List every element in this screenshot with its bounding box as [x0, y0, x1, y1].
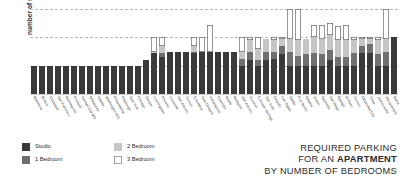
bar-column[interactable] [358, 9, 366, 94]
bar-stack [359, 37, 365, 94]
bar-column[interactable] [126, 9, 134, 94]
bar-column[interactable] [230, 9, 238, 94]
bar-segment-br2 [351, 40, 357, 53]
bar-column[interactable] [110, 9, 118, 94]
legend-swatch-2-bedroom-icon [114, 143, 122, 151]
bar-column[interactable] [302, 9, 310, 94]
bar-segment-br1 [271, 52, 277, 59]
bar-column[interactable] [46, 9, 54, 94]
bar-stack [311, 25, 317, 94]
bar-segment-br2 [319, 39, 325, 55]
bar-column[interactable] [334, 9, 342, 94]
bar-segment-br3 [295, 9, 301, 40]
bar-column[interactable] [270, 9, 278, 94]
bar-column[interactable] [62, 9, 70, 94]
title-line-1: REQUIRED PARKING [264, 143, 397, 154]
bar-stack [383, 9, 389, 94]
bar-column[interactable] [150, 9, 158, 94]
bar-column[interactable] [198, 9, 206, 94]
bar-segment-studio [135, 66, 141, 94]
bar-stack [63, 66, 69, 94]
legend-item-2-bedroom[interactable]: 2 Bedroom [114, 143, 206, 151]
bar-column[interactable] [222, 9, 230, 94]
bar-segment-studio [231, 52, 237, 95]
bar-column[interactable] [294, 9, 302, 94]
legend-item-studio[interactable]: Studio [22, 143, 114, 151]
bar-segment-studio [119, 66, 125, 94]
bar-column[interactable] [102, 9, 110, 94]
bar-column[interactable] [374, 9, 382, 94]
bar-column[interactable] [206, 9, 214, 94]
bar-stack [191, 37, 197, 94]
bar-segment-studio [143, 60, 149, 94]
bar-column[interactable] [166, 9, 174, 94]
bar-column[interactable] [310, 9, 318, 94]
bar-column[interactable] [350, 9, 358, 94]
legend-swatch-studio-icon [22, 143, 30, 151]
bar-stack [271, 37, 277, 94]
bar-stack [127, 66, 133, 94]
bar-segment-br1 [295, 56, 301, 66]
bar-column[interactable] [118, 9, 126, 94]
bar-column[interactable] [278, 9, 286, 94]
bar-segment-br3 [239, 37, 245, 51]
bar-segment-br2 [327, 35, 333, 51]
bar-segment-br2 [239, 52, 245, 59]
legend-swatch-3-bedroom-icon [114, 156, 122, 164]
bar-column[interactable] [382, 9, 390, 94]
bar-column[interactable] [390, 9, 398, 94]
legend-swatch-1-bedroom-icon [22, 156, 30, 164]
bar-column[interactable] [78, 9, 86, 94]
bar-column[interactable] [342, 9, 350, 94]
bar-column[interactable] [182, 9, 190, 94]
bar-column[interactable] [86, 9, 94, 94]
bar-column[interactable] [366, 9, 374, 94]
bar-segment-br2 [375, 40, 381, 54]
bar-segment-br1 [343, 57, 349, 66]
legend-label-3-bedroom: 3 Bedroom [127, 157, 154, 163]
bar-segment-studio [31, 66, 37, 94]
bar-column[interactable] [142, 9, 150, 94]
bar-column[interactable] [238, 9, 246, 94]
bar-column[interactable] [318, 9, 326, 94]
legend-item-1-bedroom[interactable]: 1 Bedroom [22, 156, 114, 164]
legend-label-2-bedroom: 2 Bedroom [127, 144, 154, 150]
bar-column[interactable] [38, 9, 46, 94]
legend: Studio 2 Bedroom 1 Bedroom 3 Bedroom [22, 143, 207, 169]
bar-column[interactable] [158, 9, 166, 94]
bar-column[interactable] [30, 9, 38, 94]
legend-row: 1 Bedroom 3 Bedroom [22, 156, 207, 164]
legend-item-3-bedroom[interactable]: 3 Bedroom [114, 156, 206, 164]
bar-column[interactable] [54, 9, 62, 94]
bar-column[interactable] [262, 9, 270, 94]
plot-area: 0123 number of spaces [30, 9, 398, 94]
bar-column[interactable] [94, 9, 102, 94]
bar-segment-br3 [383, 9, 389, 39]
bar-column[interactable] [134, 9, 142, 94]
bar-segment-br3 [207, 25, 213, 52]
bar-segment-studio [159, 57, 165, 94]
bar-stack [207, 25, 213, 94]
bar-column[interactable] [326, 9, 334, 94]
bar-stack [159, 37, 165, 94]
bar-segment-studio [295, 66, 301, 94]
bar-stack [79, 66, 85, 94]
bar-segment-br2 [335, 40, 341, 57]
bar-column[interactable] [254, 9, 262, 94]
bar-column[interactable] [246, 9, 254, 94]
bar-stack [223, 52, 229, 95]
bar-column[interactable] [286, 9, 294, 94]
bar-stack [151, 37, 157, 94]
bar-stack [287, 9, 293, 94]
bar-stack [319, 25, 325, 94]
bar-segment-studio [383, 66, 389, 94]
bar-column[interactable] [174, 9, 182, 94]
bar-column[interactable] [70, 9, 78, 94]
bar-column[interactable] [190, 9, 198, 94]
bar-column[interactable] [214, 9, 222, 94]
bar-segment-studio [199, 52, 205, 95]
bar-segment-br3 [287, 9, 293, 39]
bar-stack [47, 66, 53, 94]
bar-segment-studio [351, 66, 357, 94]
bar-segment-studio [71, 66, 77, 94]
